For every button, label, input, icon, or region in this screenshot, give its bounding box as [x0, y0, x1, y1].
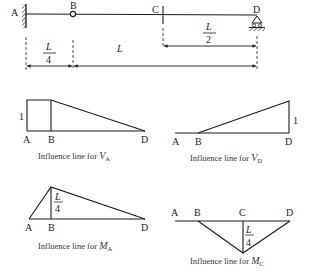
influence-line-ma: L 4 A B D Influence line for MA — [25, 187, 148, 252]
svg-text:A: A — [172, 136, 180, 147]
influence-line-vd: 1 A B D Influence line for VD — [172, 101, 298, 164]
svg-text:4: 4 — [246, 237, 251, 248]
svg-text:L: L — [45, 41, 52, 52]
diagram-canvas: A B C D L 2 L 4 L 1 A B D — [0, 0, 310, 275]
beam-line — [26, 14, 257, 15]
caption-ma: Influence line for MA — [38, 240, 112, 252]
point-label-b: B — [70, 0, 77, 11]
structure-diagram: A B C D L 2 L 4 L 1 A B D — [0, 0, 310, 275]
roller-support-icon — [249, 16, 265, 31]
svg-text:D: D — [286, 207, 293, 218]
svg-text:A: A — [23, 134, 31, 145]
dimension-label-l: L — [116, 43, 123, 54]
svg-text:B: B — [194, 207, 201, 218]
svg-text:2: 2 — [206, 34, 211, 45]
ordinate-label: 1 — [293, 115, 298, 126]
hinge-icon — [70, 11, 75, 16]
svg-text:4: 4 — [46, 54, 51, 65]
svg-text:L: L — [245, 224, 252, 235]
svg-text:D: D — [141, 222, 148, 233]
caption-mc: Influence line for MC — [190, 255, 264, 267]
point-label-a: A — [11, 7, 19, 18]
svg-text:B: B — [48, 222, 55, 233]
svg-text:L: L — [54, 191, 61, 202]
svg-text:C: C — [239, 207, 246, 218]
svg-text:D: D — [285, 136, 292, 147]
svg-text:B: B — [195, 136, 202, 147]
point-label-c: C — [152, 4, 159, 15]
svg-text:L: L — [205, 21, 212, 32]
svg-text:A: A — [171, 207, 179, 218]
caption-va: Influence line for VA — [38, 150, 110, 162]
ordinate-label: L 4 — [54, 191, 63, 214]
influence-line-mc: L 4 A B C D Influence line for MC — [171, 207, 293, 267]
svg-text:B: B — [48, 134, 55, 145]
dimension-label-l-over-2: L 2 — [203, 21, 216, 45]
dimension-label-l-over-4: L 4 — [43, 41, 56, 65]
beam-structure: A B C D L 2 L 4 L — [11, 0, 265, 70]
caption-vd: Influence line for VD — [190, 152, 262, 164]
point-label-d: D — [253, 4, 260, 15]
ordinate-label: L 4 — [245, 224, 254, 248]
svg-text:D: D — [141, 134, 148, 145]
influence-line-va: 1 A B D Influence line for VA — [19, 100, 148, 162]
svg-text:4: 4 — [55, 203, 60, 214]
svg-text:A: A — [25, 222, 33, 233]
ordinate-label: 1 — [19, 111, 24, 122]
